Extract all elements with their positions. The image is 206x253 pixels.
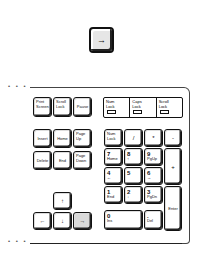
numpad-7-key: 7 Home <box>104 148 123 166</box>
led-icon <box>160 110 169 114</box>
indicator-label: Caps Lock <box>132 99 141 109</box>
numpad-enter-key: Enter <box>164 186 182 231</box>
page-up-key: Page Up <box>73 129 92 148</box>
numpad-multiply-key: * <box>144 129 163 147</box>
indicator-label: Num Lock <box>106 99 114 109</box>
numpad-8-key: 8 ↑ <box>124 148 143 166</box>
right-arrow-key-callout: → <box>89 27 114 53</box>
key-label: / <box>125 136 142 141</box>
key-label: Page Up <box>76 132 89 141</box>
continuation-dots-top: • • • <box>8 83 28 89</box>
key-label: + <box>165 164 181 169</box>
key-alt-label: Ins <box>107 219 140 224</box>
key-label: End <box>54 158 71 163</box>
led-icon <box>107 110 116 114</box>
key-label: Insert <box>34 136 51 141</box>
numpad-4-key: 4 ← <box>104 167 123 185</box>
right-arrow-icon: → <box>147 176 160 181</box>
numpad-1-key: 1 End <box>104 186 123 204</box>
frame-top-line <box>30 87 182 88</box>
scroll-lock-indicator: Scroll Lock <box>157 98 182 117</box>
home-key: Home <box>53 129 72 148</box>
key-number: 5 <box>127 170 140 176</box>
numpad-divide-key: / <box>124 129 143 147</box>
down-arrow-key: ↓ <box>53 212 72 230</box>
numpad-5-key: 5 <box>124 167 143 185</box>
numpad-decimal-key: . Del <box>144 210 163 230</box>
left-arrow-icon: ← <box>34 219 51 224</box>
indicator-label: Scroll Lock <box>159 99 169 109</box>
key-label: Scroll Lock <box>56 100 69 109</box>
delete-key: Delete <box>33 151 52 170</box>
numpad-minus-key: - <box>164 129 182 147</box>
print-screen-key: Print Screen <box>33 97 52 117</box>
caps-lock-indicator: Caps Lock <box>130 98 156 117</box>
num-lock-indicator: Num Lock <box>104 98 130 117</box>
up-arrow-key: ↑ <box>53 192 72 210</box>
key-label: * <box>145 136 162 141</box>
right-arrow-icon: → <box>74 219 91 224</box>
key-label: Print Screen <box>36 100 49 109</box>
indicator-panel: Num Lock Caps Lock Scroll Lock <box>103 97 183 118</box>
right-arrow-key: → <box>73 212 92 230</box>
numpad-plus-key: + <box>164 148 182 185</box>
key-label: Enter <box>165 206 181 211</box>
continuation-dots-bottom: • • • <box>8 238 28 244</box>
page-down-key: Page Down <box>73 151 92 170</box>
numpad-3-key: 3 PgDn <box>144 186 163 204</box>
pause-key: Pause <box>73 97 92 117</box>
key-label: - <box>165 136 181 141</box>
key-label: Page Down <box>76 154 89 163</box>
numpad-2-key: 2 ↓ <box>124 186 143 204</box>
key-alt-label: PgDn <box>147 195 160 200</box>
led-icon <box>133 110 142 114</box>
scroll-lock-key: Scroll Lock <box>53 97 72 117</box>
key-label: Pause <box>74 105 91 110</box>
key-label: Home <box>54 136 71 141</box>
numpad-9-key: 9 PgUp <box>144 148 163 166</box>
frame-bottom-line <box>30 243 182 244</box>
key-alt-label: Del <box>147 219 160 224</box>
right-arrow-icon: → <box>91 35 112 45</box>
up-arrow-icon: ↑ <box>127 157 140 162</box>
down-arrow-icon: ↓ <box>127 195 140 200</box>
end-key: End <box>53 151 72 170</box>
numpad-0-key: 0 Ins <box>104 210 143 230</box>
left-arrow-key: ← <box>33 212 52 230</box>
key-label: Delete <box>34 158 51 163</box>
numpad-num-lock-key: Num Lock <box>104 129 123 147</box>
numpad-6-key: 6 → <box>144 167 163 185</box>
key-alt-label: PgUp <box>147 157 160 162</box>
down-arrow-icon: ↓ <box>54 219 71 224</box>
up-arrow-icon: ↑ <box>54 199 71 204</box>
insert-key: Insert <box>33 129 52 148</box>
left-arrow-icon: ← <box>107 176 120 181</box>
key-alt-label: Home <box>107 157 120 162</box>
key-alt-label: End <box>107 195 120 200</box>
key-label: Num Lock <box>107 132 120 141</box>
